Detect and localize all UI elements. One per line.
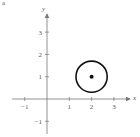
x-tick-label: 1 [68,103,72,111]
x-tick-label: −1 [21,103,29,111]
plot-shapes [76,61,107,92]
coordinate-plane: −1123 −1123 [0,0,140,137]
y-tick-label: 1 [39,73,43,81]
x-tick-label: 2 [90,103,94,111]
x-tick-label: 3 [112,103,116,111]
y-axis-label: y [42,6,45,13]
center-point [90,75,94,79]
y-tick-label: 2 [39,51,43,59]
x-axis-label: x [133,95,136,102]
y-tick-label: 3 [39,29,43,37]
y-tick-label: −1 [35,118,43,126]
